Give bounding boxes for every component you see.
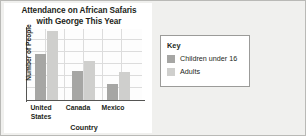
plot-wrapper: Number of People United States Canada Me…: [26, 29, 142, 100]
chart-card: Attendance on African Safaris with Georg…: [4, 3, 152, 133]
legend-box: Key Children under 16 Adults: [160, 35, 250, 87]
gridline-horizontal: [26, 39, 142, 40]
legend-label-children: Children under 16: [180, 54, 237, 63]
bar-adults-canada: [84, 61, 95, 100]
bar-adults-united-states: [47, 31, 58, 100]
x-axis-line: [26, 100, 145, 101]
x-tick-line1: Canada: [58, 104, 98, 113]
x-tick-line2: States: [21, 113, 61, 122]
legend-swatch-icon: [167, 55, 175, 63]
x-tick-canada: Canada: [58, 104, 98, 113]
legend-item-children: Children under 16: [167, 54, 249, 63]
gridline-horizontal: [26, 51, 142, 52]
x-axis-label: Country: [26, 123, 142, 132]
bar-adults-mexico: [119, 72, 130, 100]
bar-children-mexico: [107, 84, 118, 100]
legend-item-adults: Adults: [167, 67, 249, 76]
x-tick-line1: United: [21, 104, 61, 113]
legend-title: Key: [167, 41, 249, 50]
legend-label-adults: Adults: [180, 67, 200, 76]
x-tick-mexico: Mexico: [93, 104, 133, 113]
plot-area: [26, 29, 142, 100]
y-axis-label: Number of People: [25, 7, 32, 99]
bar-children-canada: [72, 71, 83, 100]
legend-swatch-icon: [167, 68, 175, 76]
chart-page: Attendance on African Safaris with Georg…: [0, 0, 306, 136]
bar-children-united-states: [35, 54, 46, 100]
x-tick-line1: Mexico: [93, 104, 133, 113]
x-tick-united-states: United States: [21, 104, 61, 121]
